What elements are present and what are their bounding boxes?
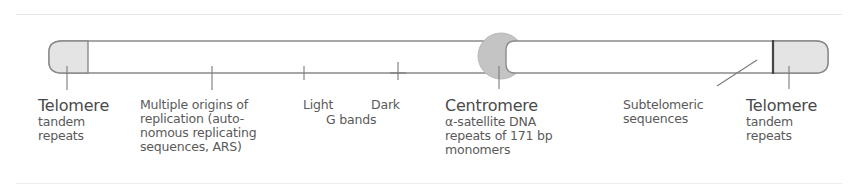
left-telomere-region (49, 41, 88, 73)
chromosome-diagram (0, 0, 856, 196)
telomere-right-label: Telomere tandem repeats (746, 97, 817, 143)
g-bands-label: G bands (326, 113, 376, 127)
subtelomeric-line-1: Subtelomeric (623, 98, 703, 112)
origins-label: Multiple origins of replication (auto- n… (140, 98, 256, 154)
telomere-left-line-2: repeats (38, 129, 109, 143)
origins-line-4: sequences, ARS) (140, 140, 256, 154)
centromere-line-3: monomers (445, 143, 553, 157)
origins-line-1: Multiple origins of (140, 98, 256, 112)
light-band-label: Light (303, 98, 333, 112)
subtelomeric-label: Subtelomeric sequences (623, 98, 703, 126)
right-chromosome-arm (506, 40, 828, 74)
centromere-line-2: repeats of 171 bp (445, 129, 553, 143)
centromere-title: Centromere (445, 97, 553, 115)
telomere-left-label: Telomere tandem repeats (38, 97, 109, 143)
right-telomere-region (773, 41, 828, 73)
left-chromosome-arm (49, 41, 497, 73)
telomere-left-line-1: tandem (38, 115, 109, 129)
telomere-right-line-1: tandem (746, 115, 817, 129)
origins-line-2: replication (auto- (140, 112, 256, 126)
centromere-line-1: α-satellite DNA (445, 115, 553, 129)
telomere-right-line-2: repeats (746, 129, 817, 143)
origins-line-3: nomous replicating (140, 126, 256, 140)
telomere-left-title: Telomere (38, 97, 109, 115)
subtelomeric-line-2: sequences (623, 112, 703, 126)
centromere-label: Centromere α-satellite DNA repeats of 17… (445, 97, 553, 157)
telomere-right-title: Telomere (746, 97, 817, 115)
dark-band-label: Dark (371, 98, 400, 112)
